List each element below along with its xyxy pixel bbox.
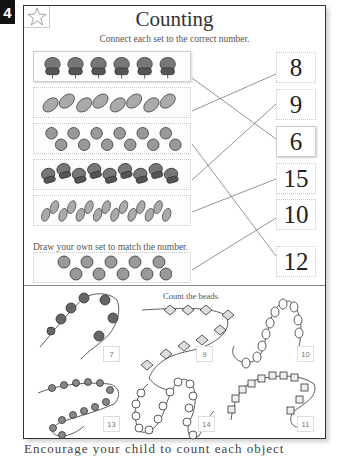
footer-note: Encourage your child to count each objec… — [24, 441, 339, 456]
berry-icons — [52, 254, 172, 282]
bead-count-box-14[interactable]: 14 — [198, 416, 215, 432]
number-box-8[interactable]: 8 — [276, 52, 316, 83]
set-acorns-9[interactable] — [33, 159, 191, 190]
set-berries-10[interactable] — [33, 252, 191, 283]
line-berries-12 — [192, 144, 276, 256]
acorn-icons — [40, 54, 184, 80]
number-box-15[interactable]: 15 — [276, 163, 316, 194]
connect-instruction: Connect each set to the correct number. — [24, 34, 325, 44]
bead-count-box-7[interactable]: 7 — [103, 346, 120, 362]
page-title: Counting — [24, 7, 325, 32]
draw-instruction: Draw your own set to match the number. — [33, 242, 188, 252]
number-box-12[interactable]: 12 — [276, 246, 316, 277]
berry-icons — [40, 125, 184, 153]
set-leaves-15[interactable] — [33, 195, 191, 226]
leaf-icons — [40, 90, 184, 116]
bead-count-box-10[interactable]: 10 — [297, 346, 314, 362]
line-acorns-9 — [192, 104, 276, 180]
number-box-10[interactable]: 10 — [276, 199, 316, 230]
page-number-tab: 4 — [0, 0, 15, 24]
line-berries-10 — [192, 218, 276, 270]
bead-strings-art — [24, 286, 327, 440]
worksheet-frame: Counting Connect each set to the correct… — [23, 5, 326, 439]
line-leaves-8 — [192, 74, 276, 111]
bead-count-box-9[interactable]: 9 — [196, 346, 213, 362]
set-leaves-8[interactable] — [33, 87, 191, 118]
line-leaves-15 — [192, 179, 276, 212]
number-box-6[interactable]: 6 — [276, 126, 316, 157]
acorn-icons — [40, 161, 184, 189]
line-acorns-6 — [192, 78, 276, 139]
bead-count-box-13[interactable]: 13 — [103, 416, 120, 432]
bead-count-box-11[interactable]: 11 — [297, 416, 314, 432]
leaf-icons — [40, 197, 184, 225]
number-box-9[interactable]: 9 — [276, 89, 316, 120]
set-acorns-6[interactable] — [33, 51, 191, 82]
set-berries-12[interactable] — [33, 123, 191, 154]
